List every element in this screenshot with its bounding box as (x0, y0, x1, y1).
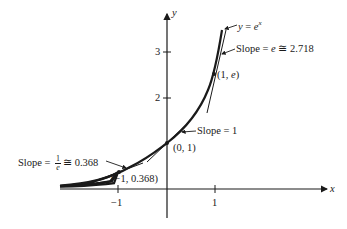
point-label-1-e: (1, e) (217, 70, 239, 81)
x-tick-label-1: 1 (212, 198, 217, 209)
y-tick-label-2: 2 (155, 93, 160, 104)
slope-label-left: Slope = 1e≅ 0.368 (18, 155, 98, 172)
curve-label: y = ex (238, 20, 262, 32)
point-label-minus1: (−1, 0.368) (111, 174, 158, 185)
exp-curve-body (60, 172, 118, 186)
slope-label-middle: Slope = 1 (197, 126, 237, 137)
point-label-0-1: (0, 1) (173, 143, 196, 154)
y-axis-label: y (172, 8, 177, 19)
slope-label-right: Slope = e ≅ 2.718 (236, 44, 314, 55)
x-axis-label: x (330, 184, 335, 195)
x-tick-label-minus1: −1 (111, 198, 122, 209)
y-tick-label-3: 3 (155, 47, 160, 58)
exponential-tangent-diagram (0, 0, 347, 229)
